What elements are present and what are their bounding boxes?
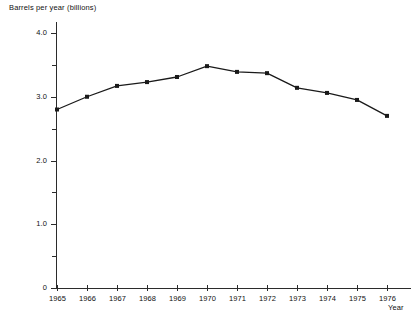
- data-point: [145, 80, 149, 84]
- data-point: [85, 95, 89, 99]
- series-line-oil-production: [57, 66, 387, 116]
- data-point: [325, 91, 329, 95]
- data-point: [265, 71, 269, 75]
- data-point: [355, 98, 359, 102]
- data-point: [385, 114, 389, 118]
- data-point: [115, 84, 119, 88]
- data-point: [55, 108, 59, 112]
- data-point: [235, 70, 239, 74]
- data-point: [175, 75, 179, 79]
- data-point: [205, 64, 209, 68]
- x-axis-title: Year: [388, 303, 404, 312]
- data-point: [295, 86, 299, 90]
- plot-area: [0, 0, 417, 316]
- chart-container: Barrels per year (billions) 01.02.03.04.…: [0, 0, 417, 316]
- series-markers: [55, 64, 389, 118]
